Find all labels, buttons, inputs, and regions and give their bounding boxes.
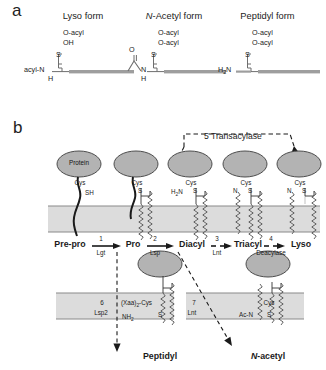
cys-label-triacyl: Cys — [237, 180, 255, 186]
enzyme-name-lnt: Lnt — [208, 250, 226, 256]
protein-blob-lyso — [277, 151, 321, 177]
enzyme-number-1: 1 — [94, 236, 108, 242]
protein-blob-diacyl — [168, 151, 212, 177]
sulfur-label-nacetyl-b: S — [267, 312, 271, 318]
sulfur-label-peptidyl: S — [245, 51, 250, 58]
sulfur-label-pro-b: S — [138, 188, 142, 194]
glycerol-bracket-lyso-b — [305, 188, 314, 196]
membrane-band-top — [48, 206, 320, 232]
structure-title-n-acetyl-prefix: N — [146, 11, 153, 21]
protein-blob-triacyl — [223, 151, 267, 177]
cys-label-diacyl: Cys — [182, 180, 200, 186]
nitrogen-label-lyso-b: N — [287, 188, 292, 194]
panel-a-letter: a — [12, 2, 21, 19]
protein-blob-pro — [114, 151, 158, 177]
enzyme-number-6: 6 — [95, 300, 109, 306]
n-acetyl-nitrogen-label: Ac-N — [239, 312, 253, 318]
enzyme-name-deacylase: Deacylase — [238, 250, 304, 256]
state-label-triacyl: Triacyl — [231, 240, 265, 249]
lipid-bar-peptidyl — [258, 70, 320, 73]
sulfur-label-peptidyl-b: S — [158, 312, 162, 318]
enzyme-name-lnt-2: Lnt — [181, 310, 203, 316]
state-label-lyso: Lyso — [287, 240, 315, 249]
n-terminus-label-peptidyl: H2N — [218, 66, 231, 76]
sulfur-label-diacyl-b: S — [193, 188, 197, 194]
enzyme-number-7: 7 — [187, 300, 201, 306]
nitrogen-label-triacyl: N — [233, 188, 238, 194]
state-label-n-acetyl: N-acetyl — [234, 352, 302, 361]
sulfur-label-lyso-b: S — [302, 188, 306, 194]
cys-label-pre-pro: Cys — [71, 180, 89, 186]
state-label-diacyl: Diacyl — [174, 240, 210, 249]
enzyme-number-3: 3 — [210, 236, 224, 242]
sulfur-label-triacyl-b: S — [248, 188, 252, 194]
structure-title-lyso-text: Lyso form — [63, 11, 103, 21]
state-label-pre-pro: Pre-pro — [48, 240, 92, 249]
enzyme-name-lgt: Lgt — [92, 250, 110, 256]
arrow-pro-to-diacyl-head — [166, 243, 174, 249]
cys-label-nacetyl-b: Cys — [260, 300, 278, 306]
structure-title-peptidyl: Peptidyl form — [215, 12, 320, 21]
glycerol-chain-peptidyl — [248, 64, 259, 72]
thiol-label-pre-pro: SH — [85, 190, 94, 196]
state-label-peptidyl: Peptidyl — [130, 352, 190, 361]
membrane-band-bottom-left — [56, 293, 174, 319]
diacylglycerol-bracket-pro — [141, 188, 150, 196]
structure-title-peptidyl-text: Peptidyl form — [240, 11, 294, 21]
transacylase-label: 5 Transacylase — [204, 132, 262, 141]
enzyme-number-4: 4 — [264, 236, 278, 242]
diacylglycerol-bracket-diacyl — [196, 188, 205, 196]
enzyme-name-lsp: Lsp — [146, 250, 164, 256]
diacylglycerol-bracket-triacyl — [251, 188, 260, 196]
state-label-n-acetyl-text: -acetyl — [257, 351, 285, 361]
cys-label-lyso: Cys — [291, 180, 309, 186]
figure-container: a b Lyso form N-Acetyl form Peptidyl for… — [0, 0, 326, 370]
amine-label-diacyl: H2N — [171, 189, 183, 198]
protein-blob-label: Protein — [64, 160, 94, 166]
cys-label-peptidyl-b: (Xaa)2-Cys — [121, 300, 152, 309]
state-label-pro: Pro — [120, 240, 146, 249]
substituent-label-peptidyl-1: O-acyl — [252, 29, 273, 36]
amine-label-peptidyl-b: NH2 — [122, 314, 134, 323]
cys-label-pro: Cys — [128, 180, 146, 186]
enzyme-name-lsp2: Lsp2 — [87, 310, 115, 316]
branch-diacyl-to-nacetyl-arrowhead — [224, 337, 232, 346]
diacylglycerol-bracket-nacetyl-b — [272, 282, 281, 288]
enzyme-number-2: 2 — [148, 236, 162, 242]
structure-title-n-acetyl: N-Acetyl form — [118, 12, 230, 21]
structure-title-n-acetyl-text: -Acetyl form — [153, 11, 203, 21]
diacylglycerol-bracket-peptidyl-b — [163, 282, 172, 288]
substituent-label-peptidyl-2: O-acyl — [252, 39, 273, 46]
branch-pro-to-peptidyl-arrowhead — [113, 344, 120, 353]
